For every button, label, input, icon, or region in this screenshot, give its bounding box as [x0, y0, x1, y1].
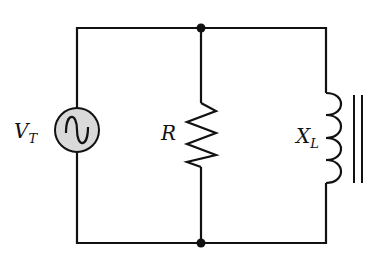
source-label-main: V: [14, 119, 28, 143]
inductor-label-sub: L: [310, 136, 319, 151]
circuit-schematic: [0, 0, 381, 255]
resistor-symbol: [187, 103, 216, 167]
resistor-label: R: [161, 123, 176, 143]
top-junction-node: [197, 24, 206, 33]
circuit-diagram: VT R XL: [0, 0, 381, 255]
bottom-junction-node: [197, 239, 206, 248]
inductor-symbol: [326, 93, 341, 183]
inductor-label-main: X: [296, 124, 310, 148]
source-label: VT: [14, 121, 37, 145]
source-label-sub: T: [28, 131, 37, 146]
resistor-label-main: R: [161, 121, 176, 145]
inductor-label: XL: [296, 126, 319, 150]
